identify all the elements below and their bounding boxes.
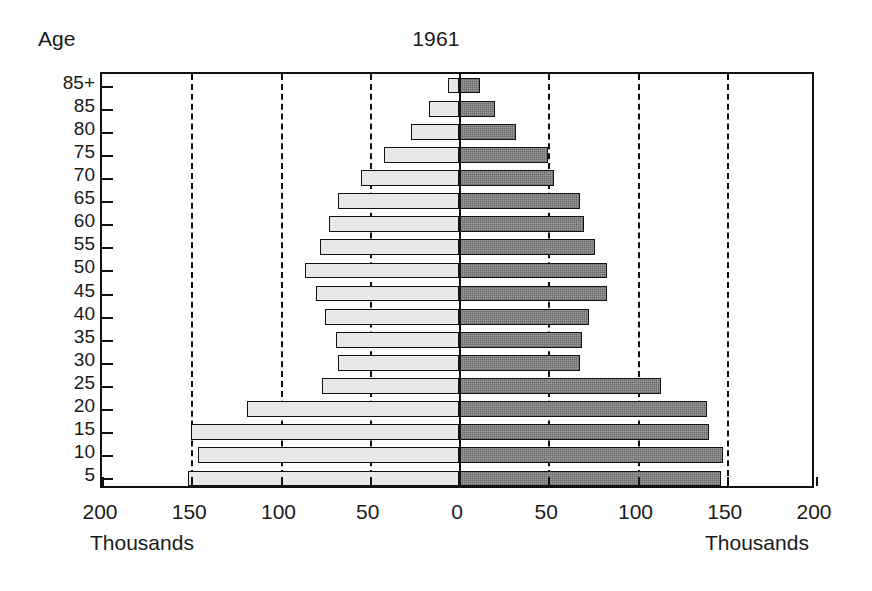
bar-left	[247, 401, 459, 417]
bar-row	[102, 213, 812, 236]
y-axis-label: 65	[74, 187, 95, 209]
y-axis-label: 50	[74, 256, 95, 278]
zero-axis-line	[459, 74, 461, 486]
bar-right	[459, 355, 580, 371]
y-tick	[102, 455, 113, 457]
bar-right	[459, 447, 723, 463]
bar-row	[102, 328, 812, 351]
y-tick	[102, 109, 113, 111]
x-tick	[816, 477, 818, 486]
bar-row	[102, 259, 812, 282]
bar-right	[459, 286, 607, 302]
bar-row	[102, 282, 812, 305]
y-tick	[102, 86, 113, 88]
x-tick	[191, 477, 193, 486]
x-axis-label: 150	[172, 500, 207, 524]
chart-title: 1961	[0, 27, 872, 51]
bar-left	[361, 170, 459, 186]
bar-row	[102, 351, 812, 374]
bar-left	[325, 309, 459, 325]
bar-row	[102, 467, 812, 490]
bar-left	[384, 147, 459, 163]
bar-row	[102, 374, 812, 397]
x-axis-label: 150	[707, 500, 742, 524]
y-tick	[102, 317, 113, 319]
bar-left	[188, 471, 459, 487]
y-axis-labels: 85+858075706560555045403530252015105	[0, 72, 95, 488]
bar-row	[102, 305, 812, 328]
bar-row	[102, 143, 812, 166]
y-tick	[102, 224, 113, 226]
bar-right	[459, 332, 582, 348]
y-tick	[102, 247, 113, 249]
bar-left	[448, 78, 459, 94]
x-tick	[281, 477, 283, 486]
y-axis-label: 45	[74, 280, 95, 302]
y-axis-label: 35	[74, 326, 95, 348]
y-tick	[102, 294, 113, 296]
bar-row	[102, 190, 812, 213]
y-tick	[102, 132, 113, 134]
y-axis-label: 5	[84, 464, 95, 486]
y-tick	[102, 270, 113, 272]
x-tick	[370, 477, 372, 486]
bar-row	[102, 74, 812, 97]
x-axis-label: 200	[82, 500, 117, 524]
x-tick	[548, 477, 550, 486]
y-tick	[102, 201, 113, 203]
y-axis-label: 75	[74, 141, 95, 163]
y-tick	[102, 178, 113, 180]
y-tick	[102, 363, 113, 365]
x-axis-label: 50	[356, 500, 379, 524]
bar-right	[459, 216, 584, 232]
bar-left	[329, 216, 459, 232]
x-axis-label: 100	[618, 500, 653, 524]
bar-right	[459, 263, 607, 279]
bar-right	[459, 401, 707, 417]
y-tick	[102, 155, 113, 157]
y-tick	[102, 478, 113, 480]
bar-right	[459, 101, 495, 117]
x-axis-label: 200	[796, 500, 831, 524]
plot-area	[100, 72, 814, 488]
bar-right	[459, 239, 595, 255]
bar-left	[429, 101, 459, 117]
y-axis-label: 10	[74, 441, 95, 463]
bar-left	[198, 447, 459, 463]
bar-right	[459, 193, 580, 209]
bar-row	[102, 236, 812, 259]
y-axis-label: 55	[74, 233, 95, 255]
bar-right	[459, 471, 721, 487]
bar-row	[102, 444, 812, 467]
bar-row	[102, 166, 812, 189]
x-axis-label: 50	[535, 500, 558, 524]
bar-left	[320, 239, 459, 255]
x-axis-label: 0	[451, 500, 463, 524]
y-tick	[102, 386, 113, 388]
bar-right	[459, 309, 589, 325]
population-pyramid-figure: Age 1961 85+8580757065605550454035302520…	[0, 0, 872, 591]
y-axis-label: 15	[74, 418, 95, 440]
y-axis-label: 80	[74, 118, 95, 140]
units-label-right: Thousands	[705, 531, 809, 555]
y-axis-label: 30	[74, 349, 95, 371]
bar-right	[459, 170, 554, 186]
bar-row	[102, 398, 812, 421]
bar-row	[102, 120, 812, 143]
bar-right	[459, 424, 709, 440]
y-tick	[102, 409, 113, 411]
bar-right	[459, 147, 548, 163]
units-label-left: Thousands	[90, 531, 194, 555]
bar-left	[322, 378, 459, 394]
x-tick	[727, 477, 729, 486]
x-tick	[638, 477, 640, 486]
bar-row	[102, 97, 812, 120]
y-axis-label: 40	[74, 303, 95, 325]
y-tick	[102, 340, 113, 342]
x-axis-labels: 20015010050050100150200	[0, 500, 872, 530]
bar-left	[305, 263, 459, 279]
y-tick	[102, 432, 113, 434]
y-axis-label: 70	[74, 164, 95, 186]
y-axis-label: 60	[74, 210, 95, 232]
x-axis-label: 100	[261, 500, 296, 524]
